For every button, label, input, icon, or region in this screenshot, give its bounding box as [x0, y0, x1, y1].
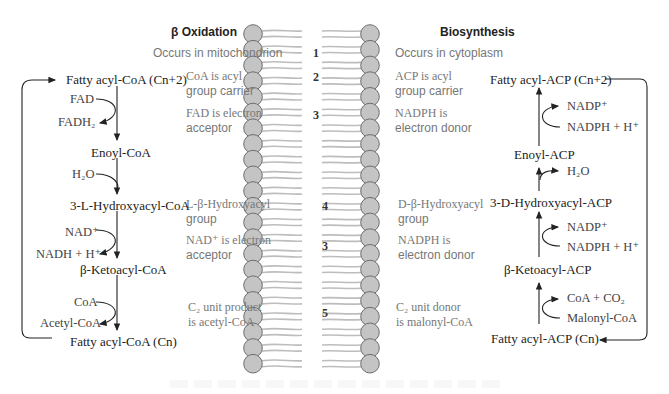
- comparison-left-text: acceptor: [186, 120, 232, 136]
- comparison-right-text: group carrier: [395, 83, 463, 99]
- cofactor-nadp: NADP⁺: [567, 98, 608, 114]
- comparison-left-text: group carrier: [186, 83, 254, 99]
- cofactor-fad: FAD: [70, 92, 94, 107]
- cofactor-coa: CoA: [74, 295, 98, 310]
- intermediate-fatty-acyl-coa-n2: Fatty acyl-CoA (Cn+2): [66, 72, 187, 88]
- cofactor-nadph: NADPH + H⁺: [567, 239, 639, 255]
- cofactor-nad: NAD⁺: [65, 224, 99, 240]
- comparison-left-text: L-β-Hydroxyacyl: [186, 196, 270, 212]
- cofactor-malonyl-coa: Malonyl-CoA: [567, 311, 637, 326]
- comparison-left-text: group: [186, 211, 217, 227]
- intermediate-hydroxyacyl-coa: 3-L-Hydroxyacyl-CoA: [70, 198, 190, 214]
- comparison-left-text: CoA is acyl: [186, 68, 242, 84]
- biosynthesis-title: Biosynthesis: [440, 25, 515, 39]
- beta-oxidation-title: β Oxidation: [171, 25, 237, 39]
- comparison-right-text: ACP is acyl: [395, 68, 452, 84]
- comparison-right-text: C₂ unit donor: [396, 299, 461, 315]
- comparison-number: 3: [322, 239, 328, 254]
- comparison-right-text: Occurs in cytoplasm: [395, 45, 503, 61]
- intermediate-fatty-acyl-acp-n: Fatty acyl-ACP (Cn): [491, 331, 599, 347]
- cofactor-acetyl-coa: Acetyl-CoA: [40, 316, 101, 331]
- comparison-right-text: group: [398, 211, 429, 227]
- comparison-left-text: acceptor: [186, 247, 232, 263]
- comparison-left-text: is acetyl-CoA: [188, 314, 254, 330]
- intermediate-fatty-acyl-coa-n: Fatty acyl-CoA (Cn): [70, 334, 177, 350]
- comparison-number: 3: [313, 108, 319, 123]
- cofactor-nadp: NADP⁺: [567, 219, 608, 235]
- intermediate-hydroxyacyl-acp: 3-D-Hydroxyacyl-ACP: [490, 195, 612, 211]
- comparison-left-text: FAD is electron: [186, 105, 262, 121]
- cofactor-h2o: H₂O: [567, 164, 589, 179]
- comparison-number: 2: [313, 70, 319, 85]
- comparison-right-text: NADPH is: [395, 105, 447, 121]
- comparison-right-text: electron donor: [395, 120, 472, 136]
- comparison-right-text: D-β-Hydroxyacyl: [398, 196, 483, 212]
- intermediate-enoyl-acp: Enoyl-ACP: [514, 147, 575, 163]
- intermediate-ketoacyl-coa: β-Ketoacyl-CoA: [80, 262, 167, 278]
- intermediate-fatty-acyl-acp-n2: Fatty acyl-ACP (Cn+2): [490, 72, 612, 88]
- comparison-number: 1: [313, 46, 319, 61]
- cofactor-nadph: NADPH + H⁺: [567, 119, 639, 135]
- cofactor-nadh: NADH + H⁺: [36, 246, 101, 262]
- comparison-left-text: NAD⁺ is electron: [186, 232, 271, 248]
- comparison-left-text: Occurs in mitochondrion: [153, 45, 282, 61]
- cofactor-coa-co2: CoA + CO₂: [567, 291, 625, 306]
- intermediate-ketoacyl-acp: β-Ketoacyl-ACP: [504, 262, 591, 278]
- comparison-right-text: electron donor: [398, 247, 475, 263]
- comparison-number: 5: [322, 306, 328, 321]
- comparison-left-text: C₂ unit product: [188, 299, 262, 315]
- intermediate-enoyl-coa: Enoyl-CoA: [91, 145, 151, 161]
- comparison-right-text: NADPH is: [398, 232, 450, 248]
- cofactor-fadh2: FADH₂: [58, 115, 95, 130]
- figure-caption-faint: [170, 380, 500, 388]
- comparison-right-text: is malonyl-CoA: [396, 314, 473, 330]
- cofactor-h2o: H₂O: [72, 167, 94, 182]
- comparison-number: 4: [322, 199, 328, 214]
